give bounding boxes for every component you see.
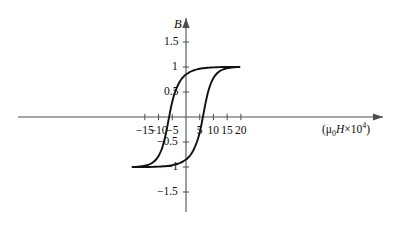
x-tick-label: 15 [221, 125, 233, 137]
x-tick-label: 5 [197, 125, 203, 137]
y-tick-label: 0.5 [164, 86, 178, 98]
x-tick-label: 10 [207, 125, 219, 137]
x-axis-arrowhead [373, 113, 383, 120]
y-axis-label: B [174, 18, 182, 31]
y-tick-label: 1.5 [164, 36, 178, 48]
y-tick-label: 1 [172, 61, 178, 73]
x-tick-label: 20 [235, 125, 247, 137]
plot-area [0, 0, 401, 230]
hysteresis-loop-figure: B (μ0H×104) −15−10−55101520 1.510.5−0.5−… [0, 0, 401, 230]
y-axis-arrowhead [182, 18, 189, 28]
y-tick-label: −0.5 [157, 136, 178, 148]
y-tick-label: −1 [166, 161, 178, 173]
y-tick-label: −1.5 [157, 186, 178, 198]
x-axis-label: (μ0H×104) [322, 122, 370, 138]
axis-lines [18, 18, 383, 212]
